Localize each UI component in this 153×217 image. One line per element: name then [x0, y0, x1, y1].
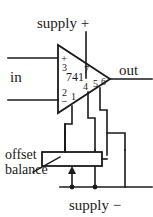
wiper-arrowhead [68, 166, 76, 174]
label-part-number: 741 [66, 71, 84, 83]
pin-number-7: 7 [84, 65, 89, 75]
label-balance: balance [5, 163, 48, 177]
label-output: out [119, 63, 138, 78]
pin-number-1: 1 [71, 92, 76, 102]
wire-pin5-to-pot-right [100, 88, 125, 150]
label-supply-plus: supply + [37, 16, 89, 31]
circuit-drawing-canvas [0, 0, 153, 217]
pin-number-4: 4 [83, 82, 88, 92]
pin-number-3: 3 [62, 63, 67, 73]
label-input: in [10, 70, 22, 85]
junction-dot-pin4 [93, 185, 98, 190]
label-supply-minus: supply − [69, 198, 121, 213]
label-offset: offset [5, 148, 37, 162]
wire-pin1-to-pot-left [65, 106, 72, 155]
potentiometer-body [42, 152, 102, 166]
pin-number-5: 5 [93, 79, 98, 89]
schematic-figure: supply + supply − in out offset balance … [0, 0, 153, 217]
pin-number-2: 2 [62, 88, 67, 98]
wire-pin4-to-supply-minus [88, 92, 95, 150]
pin-number-6: 6 [101, 77, 106, 87]
junction-dot-wiper [70, 185, 75, 190]
